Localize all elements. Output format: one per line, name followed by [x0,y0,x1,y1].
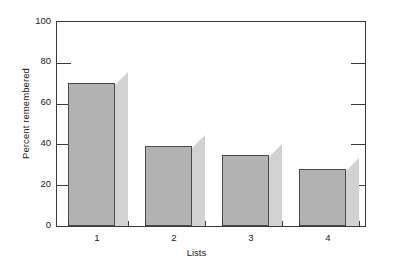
bar-top-face [192,135,205,148]
x-axis-tick [299,221,300,226]
y-axis-tick-right [351,144,365,145]
x-axis-tick-label: 3 [231,232,271,243]
x-axis-tick [128,221,129,226]
bar-front-face [222,155,269,226]
bar-front-face [299,169,346,226]
bar-side-face [192,148,205,226]
bar-top-face [346,158,359,171]
y-axis-tick [57,63,71,64]
x-axis-tick-label: 4 [308,232,348,243]
bar [222,142,282,226]
bar [68,70,128,226]
plot-area [56,21,366,227]
x-axis-tick [205,221,206,226]
y-axis-tick-right [351,104,365,105]
y-axis-title: Percent remembered [20,44,31,184]
x-axis-tick-label: 2 [154,232,194,243]
x-axis-tick [145,221,146,226]
bar-side-face [269,157,282,226]
x-axis-title: Lists [0,247,393,258]
x-axis-tick [359,221,360,226]
x-axis-tick-label: 1 [77,232,117,243]
y-axis-tick-label: 80 [40,55,51,66]
bar-top-face [269,144,282,157]
bar-chart: Percent remembered Lists 020406080100123… [0,0,393,265]
x-axis-tick [68,221,69,226]
bar-side-face [346,171,359,226]
y-axis-tick-label: 0 [46,219,51,230]
x-axis-tick [282,221,283,226]
bar [145,133,205,226]
bar-top-face [115,72,128,85]
y-axis-tick-right [351,63,365,64]
x-axis-tick [222,221,223,226]
y-axis-tick-label: 60 [40,96,51,107]
bar-side-face [115,85,128,226]
bar [299,156,359,226]
bar-front-face [68,83,115,226]
bar-front-face [145,146,192,226]
y-axis-tick-label: 20 [40,178,51,189]
y-axis-tick-label: 100 [35,15,51,26]
y-axis-tick-label: 40 [40,137,51,148]
